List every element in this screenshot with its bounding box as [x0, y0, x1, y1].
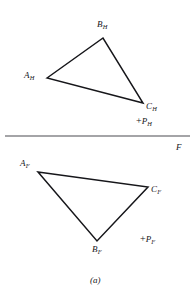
vertex-subscript: F [26, 162, 30, 169]
vertex-subscript: F [98, 248, 102, 255]
point-subscript: H [147, 120, 152, 127]
front-view-triangle [38, 172, 148, 241]
figure-container: AH BH CH +PH F AF CF BF +PF (a) [0, 0, 196, 302]
vertex-label-a-h: AH [24, 71, 34, 80]
vertex-letter: A [24, 70, 30, 80]
vertex-label-c-h: CH [146, 102, 157, 111]
vertex-subscript: F [157, 188, 161, 195]
vertex-letter: B [97, 19, 103, 29]
vertex-label-b-f: BF [92, 245, 102, 254]
vertex-label-a-f: AF [20, 159, 30, 168]
vertex-letter: A [20, 158, 26, 168]
figure-caption: (a) [90, 276, 101, 285]
vertex-letter: B [92, 244, 98, 254]
figure-linework [0, 0, 196, 302]
fold-line-label: F [176, 143, 182, 152]
vertex-subscript: H [152, 105, 157, 112]
vertex-label-c-f: CF [151, 185, 161, 194]
vertex-subscript: H [30, 74, 35, 81]
point-subscript: F [151, 238, 155, 245]
top-view-triangle [47, 38, 143, 103]
vertex-subscript: H [103, 23, 108, 30]
vertex-label-b-h: BH [97, 20, 107, 29]
point-label-p-h: +PH [136, 116, 152, 126]
point-label-p-f: +PF [140, 234, 155, 244]
